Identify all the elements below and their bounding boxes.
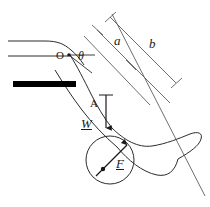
dim-a-extension-end bbox=[126, 60, 136, 70]
figure-container: O θ a b A W F bbox=[0, 0, 210, 207]
label-length-b: b bbox=[149, 37, 156, 50]
force-circle bbox=[86, 136, 134, 184]
foot-sole-contour bbox=[117, 147, 178, 175]
force-origin-dot bbox=[101, 167, 105, 171]
label-length-a: a bbox=[114, 34, 121, 47]
limb-axis-right bbox=[112, 14, 205, 196]
force-circle-group bbox=[86, 136, 134, 184]
label-origin: O bbox=[56, 50, 64, 61]
foot-outline bbox=[112, 128, 201, 175]
limb-axis-cross bbox=[131, 64, 170, 103]
thigh-upper-edge bbox=[8, 41, 84, 65]
label-force-vector: F bbox=[116, 157, 124, 170]
foot-top-contour bbox=[112, 128, 201, 159]
diagram-canvas bbox=[0, 0, 210, 207]
label-weight-vector: W bbox=[81, 117, 92, 130]
label-angle-theta: θ bbox=[78, 50, 84, 62]
dim-b-extension-start bbox=[105, 12, 116, 22]
origin-dot bbox=[67, 53, 71, 57]
ground-bar bbox=[13, 81, 76, 87]
label-point-a: A bbox=[90, 98, 98, 109]
